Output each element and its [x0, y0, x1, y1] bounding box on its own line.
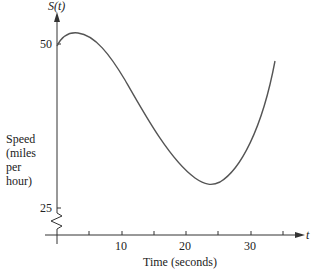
x-axis-arrow-icon	[295, 232, 305, 238]
y-axis-title: S(t)	[48, 0, 65, 13]
y-tick-label-50: 50	[40, 38, 52, 51]
y-label-line-3: per	[6, 161, 21, 174]
x-tick-label-20: 20	[179, 240, 191, 253]
x-tick-label-10: 10	[115, 240, 127, 253]
y-axis-arrow-icon	[54, 12, 60, 22]
x-tick-label-30: 30	[244, 240, 256, 253]
y-label-line-4: hour)	[6, 175, 32, 188]
x-axis-symbol: t	[306, 229, 309, 242]
x-axis-title: Time (seconds)	[143, 256, 217, 269]
y-ticks	[57, 44, 61, 208]
y-tick-label-25: 25	[40, 202, 52, 215]
y-label-line-2: (miles	[6, 147, 36, 160]
speed-curve	[57, 33, 275, 184]
y-label-line-1: Speed	[6, 133, 35, 146]
x-ticks	[89, 231, 283, 235]
axis-break-icon	[51, 213, 62, 244]
